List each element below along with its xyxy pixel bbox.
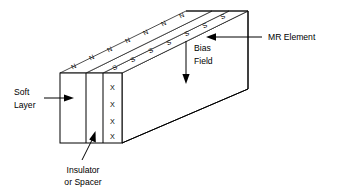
insulator-label-line1: Insulator — [67, 165, 100, 175]
x-mark: X — [110, 100, 115, 109]
mr-element-label: MR Element — [268, 32, 316, 42]
bias-field-label-line2: Field — [194, 56, 213, 66]
x-mark: X — [110, 83, 115, 92]
x-mark: X — [110, 132, 115, 141]
diagram-canvas: N N N N N N N S S S S S S S X X X X — [0, 0, 343, 189]
insulator-label-line2: or Spacer — [64, 177, 101, 187]
bias-field-label-line1: Bias — [194, 43, 211, 53]
mr-element-diagram: N N N N N N N S S S S S S S X X X X — [0, 0, 343, 189]
x-mark: X — [110, 117, 115, 126]
soft-layer-label-line1: Soft — [14, 87, 30, 97]
soft-layer-front-face — [60, 73, 86, 143]
soft-layer-label-line2: Layer — [14, 100, 36, 110]
